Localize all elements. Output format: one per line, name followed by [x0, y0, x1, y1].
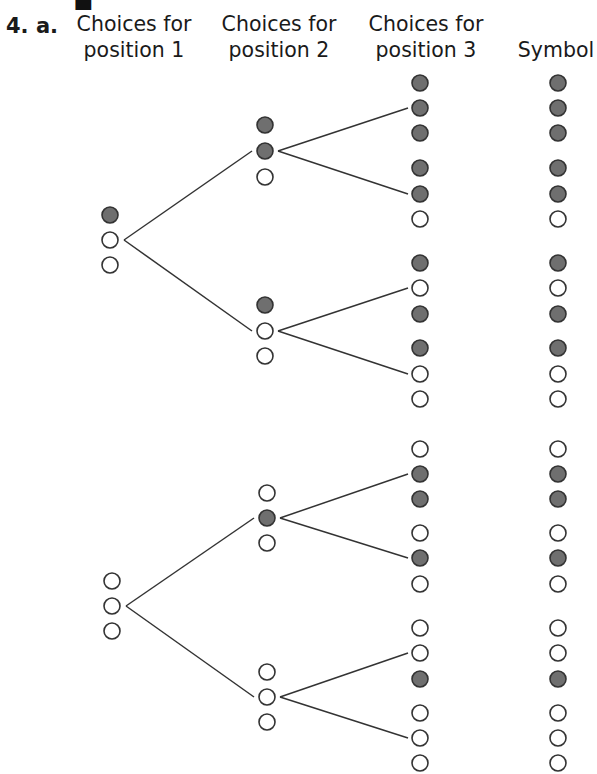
position-3-filled-circle — [412, 466, 428, 482]
branch-line — [126, 606, 254, 697]
symbol-open-circle — [550, 576, 566, 592]
symbol-filled-circle — [550, 306, 566, 322]
position-1-open-circle — [104, 573, 120, 589]
position-2-open-circle — [259, 664, 275, 680]
position-3-filled-circle — [412, 306, 428, 322]
branch-line — [278, 331, 408, 374]
position-3-open-circle — [412, 730, 428, 746]
position-2-open-circle — [259, 485, 275, 501]
position-3-open-circle — [412, 755, 428, 771]
position-2-open-circle — [257, 169, 273, 185]
position-3-filled-circle — [412, 255, 428, 271]
position-3-filled-circle — [412, 186, 428, 202]
position-2-open-circle — [259, 689, 275, 705]
position-3-open-circle — [412, 391, 428, 407]
symbol-open-circle — [550, 620, 566, 636]
symbol-open-circle — [550, 730, 566, 746]
position-1-open-circle — [104, 623, 120, 639]
position-3-filled-circle — [412, 160, 428, 176]
position-2-filled-circle — [259, 510, 275, 526]
position-1-filled-circle — [102, 207, 118, 223]
position-3-filled-circle — [412, 491, 428, 507]
position-3-open-circle — [412, 705, 428, 721]
position-3-open-circle — [412, 645, 428, 661]
position-3-filled-circle — [412, 125, 428, 141]
branch-line — [278, 151, 408, 194]
position-3-open-circle — [412, 366, 428, 382]
symbol-filled-circle — [550, 340, 566, 356]
symbol-filled-circle — [550, 186, 566, 202]
position-3-open-circle — [412, 280, 428, 296]
position-1-open-circle — [102, 232, 118, 248]
position-3-open-circle — [412, 620, 428, 636]
branch-line — [280, 474, 408, 518]
symbol-open-circle — [550, 280, 566, 296]
position-3-open-circle — [412, 211, 428, 227]
position-3-open-circle — [412, 525, 428, 541]
position-3-open-circle — [412, 441, 428, 457]
symbol-filled-circle — [550, 100, 566, 116]
branch-line — [280, 697, 408, 738]
position-3-filled-circle — [412, 75, 428, 91]
position-2-open-circle — [257, 323, 273, 339]
symbol-open-circle — [550, 645, 566, 661]
position-2-filled-circle — [257, 117, 273, 133]
position-3-open-circle — [412, 576, 428, 592]
branch-line — [278, 288, 408, 331]
position-2-filled-circle — [257, 143, 273, 159]
symbol-filled-circle — [550, 160, 566, 176]
position-3-filled-circle — [412, 550, 428, 566]
branch-line — [124, 240, 252, 331]
symbol-filled-circle — [550, 125, 566, 141]
position-3-filled-circle — [412, 671, 428, 687]
position-2-open-circle — [259, 714, 275, 730]
position-3-filled-circle — [412, 340, 428, 356]
symbol-open-circle — [550, 391, 566, 407]
symbol-open-circle — [550, 441, 566, 457]
symbol-filled-circle — [550, 491, 566, 507]
position-1-open-circle — [102, 257, 118, 273]
symbol-open-circle — [550, 705, 566, 721]
branch-line — [124, 151, 252, 240]
branch-line — [280, 518, 408, 558]
position-1-open-circle — [104, 598, 120, 614]
symbol-open-circle — [550, 366, 566, 382]
position-2-open-circle — [259, 535, 275, 551]
symbol-filled-circle — [550, 466, 566, 482]
symbol-open-circle — [550, 755, 566, 771]
symbol-open-circle — [550, 525, 566, 541]
symbol-filled-circle — [550, 75, 566, 91]
symbol-filled-circle — [550, 550, 566, 566]
position-3-filled-circle — [412, 100, 428, 116]
symbol-open-circle — [550, 211, 566, 227]
branch-line — [280, 653, 408, 697]
position-2-open-circle — [257, 348, 273, 364]
branch-line — [126, 518, 254, 606]
branch-line — [278, 108, 408, 151]
position-2-filled-circle — [257, 297, 273, 313]
symbol-filled-circle — [550, 671, 566, 687]
symbol-filled-circle — [550, 255, 566, 271]
